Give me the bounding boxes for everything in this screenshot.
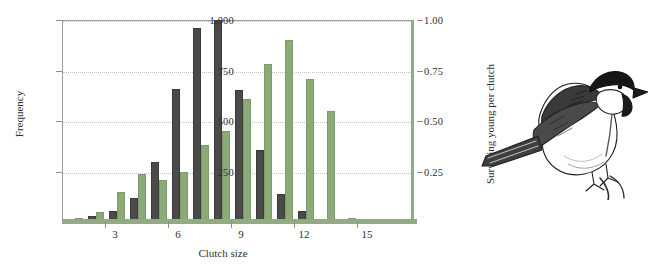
x-tick-label-3: 3 bbox=[100, 228, 130, 240]
x-tickmark-12 bbox=[294, 221, 295, 228]
y-left-tick-label-750: 750 bbox=[174, 65, 234, 76]
great-tit-bird-icon bbox=[472, 44, 648, 200]
y-right-tickmark-0.25 bbox=[417, 172, 423, 173]
clutch-size-figure: Frequency Surviving young per clutch 250… bbox=[0, 0, 653, 272]
survival-bar-clutch-11 bbox=[285, 40, 293, 222]
survival-bar-clutch-10 bbox=[264, 64, 272, 222]
y-right-tick-label-1: 1.00 bbox=[424, 15, 470, 26]
survival-bar-clutch-12 bbox=[306, 79, 314, 222]
bar-group-clutch-1 bbox=[67, 21, 83, 222]
x-tickmark-3 bbox=[105, 221, 106, 228]
survival-bar-clutch-3 bbox=[117, 192, 125, 222]
y-left-tickmark-750 bbox=[56, 71, 62, 72]
bar-group-clutch-3 bbox=[109, 21, 125, 222]
plot-area bbox=[62, 20, 414, 222]
x-tick-label-9: 9 bbox=[226, 228, 256, 240]
survival-bar-clutch-5 bbox=[159, 180, 167, 222]
y-right-tick-label-0.5: 0.50 bbox=[424, 116, 470, 127]
x-tickmark-6 bbox=[168, 221, 169, 228]
bar-group-clutch-9 bbox=[235, 21, 251, 222]
frequency-bar-clutch-6 bbox=[172, 89, 180, 222]
y-left-tick-label-250: 250 bbox=[174, 166, 234, 177]
frequency-bar-clutch-9 bbox=[235, 90, 243, 222]
bar-group-clutch-2 bbox=[88, 21, 104, 222]
y-left-tickmark-500 bbox=[56, 121, 62, 122]
survival-bar-clutch-9 bbox=[243, 99, 251, 222]
y-right-tickmark-0.5 bbox=[417, 121, 423, 122]
x-axis-baseline bbox=[62, 219, 417, 224]
y-axis-left-title: Frequency bbox=[13, 59, 25, 169]
bar-group-clutch-5 bbox=[151, 21, 167, 222]
y-right-tickmark-1 bbox=[417, 20, 423, 21]
x-tick-label-6: 6 bbox=[163, 228, 193, 240]
x-axis-title: Clutch size bbox=[158, 247, 288, 259]
frequency-bar-clutch-5 bbox=[151, 162, 159, 222]
survival-bar-clutch-4 bbox=[138, 174, 146, 222]
y-left-tickmark-1000 bbox=[56, 20, 62, 21]
bar-group-clutch-4 bbox=[130, 21, 146, 222]
survival-bar-clutch-6 bbox=[180, 172, 188, 223]
y-left-tick-label-1000: 1,000 bbox=[174, 15, 234, 26]
x-tickmark-15 bbox=[357, 221, 358, 228]
x-tick-label-12: 12 bbox=[289, 228, 319, 240]
survival-bar-clutch-7 bbox=[201, 145, 209, 222]
y-left-tick-label-500: 500 bbox=[174, 116, 234, 127]
survival-bar-clutch-13 bbox=[327, 111, 335, 222]
x-tick-label-15: 15 bbox=[352, 228, 382, 240]
frequency-bar-clutch-10 bbox=[256, 150, 264, 222]
y-right-tick-label-0.75: 0.75 bbox=[424, 65, 470, 76]
frequency-bar-clutch-11 bbox=[277, 194, 285, 222]
y-right-tickmark-0.75 bbox=[417, 71, 423, 72]
bar-series-container bbox=[63, 21, 411, 222]
x-tickmark-9 bbox=[231, 221, 232, 228]
bar-group-clutch-10 bbox=[256, 21, 272, 222]
y-right-tick-label-0.25: 0.25 bbox=[424, 166, 470, 177]
y-left-tickmark-250 bbox=[56, 172, 62, 173]
bar-group-clutch-12 bbox=[298, 21, 314, 222]
bar-group-clutch-11 bbox=[277, 21, 293, 222]
bar-group-clutch-14 bbox=[340, 21, 356, 222]
bar-group-clutch-13 bbox=[319, 21, 335, 222]
